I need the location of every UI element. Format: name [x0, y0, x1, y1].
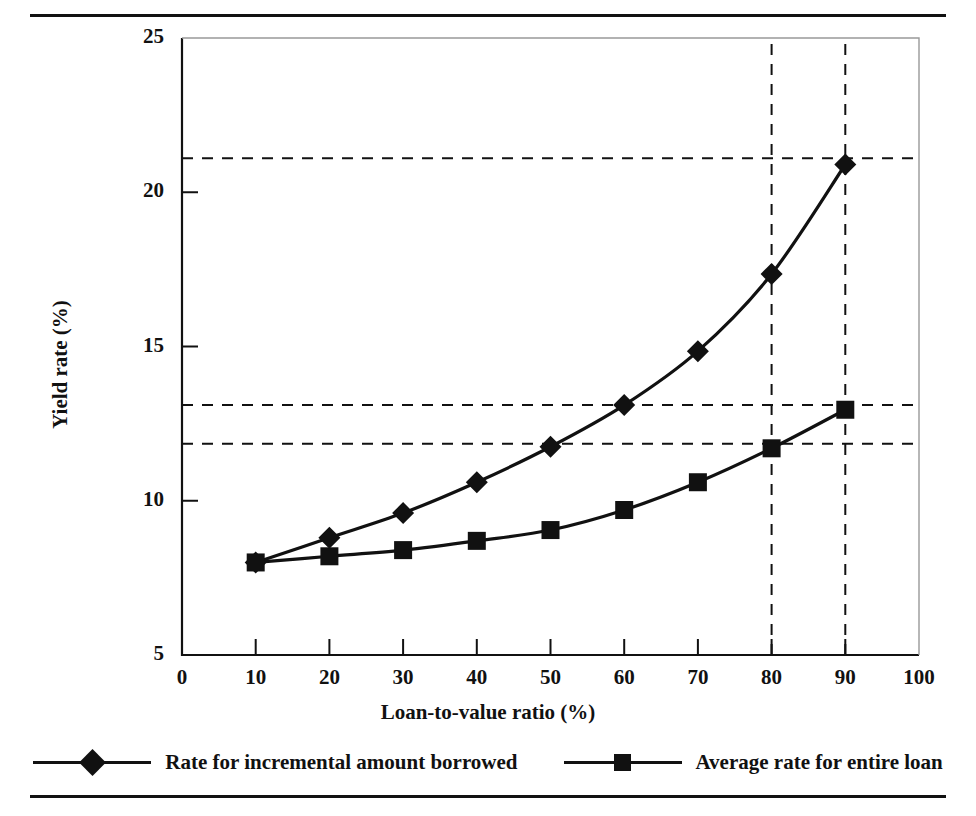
figure-container: 510152025 0102030405060708090100 Loan-to… — [0, 0, 976, 816]
data-point-incremental-20 — [318, 527, 340, 549]
y-tick-label-10: 10 — [104, 487, 164, 512]
data-point-average-60 — [615, 501, 633, 519]
data-point-incremental-50 — [540, 436, 562, 458]
legend-key-diamond — [33, 750, 151, 774]
x-tick-label-80: 80 — [742, 665, 802, 690]
legend-label-average-rate: Average rate for entire loan — [696, 750, 943, 775]
data-point-incremental-40 — [466, 471, 488, 493]
x-axis-title: Loan-to-value ratio (%) — [0, 700, 976, 725]
plot-frame — [182, 38, 919, 655]
x-tick-label-70: 70 — [668, 665, 728, 690]
data-point-average-40 — [468, 532, 486, 550]
y-tick-label-20: 20 — [104, 178, 164, 203]
chart-plot-area — [0, 0, 976, 816]
data-point-incremental-90 — [834, 153, 856, 175]
x-tick-label-100: 100 — [889, 665, 949, 690]
legend-label-incremental-rate: Rate for incremental amount borrowed — [165, 750, 517, 775]
plot-axes — [182, 38, 919, 655]
x-tick-label-40: 40 — [447, 665, 507, 690]
data-point-average-70 — [689, 473, 707, 491]
x-tick-label-90: 90 — [815, 665, 875, 690]
y-tick-label-15: 15 — [104, 333, 164, 358]
diamond-marker-icon — [79, 749, 106, 776]
data-point-average-90 — [836, 401, 854, 419]
data-point-average-50 — [542, 521, 560, 539]
legend-item-average-rate: Average rate for entire loan — [564, 750, 943, 775]
data-point-incremental-30 — [392, 502, 414, 524]
x-tick-label-10: 10 — [226, 665, 286, 690]
y-axis-title: Yield rate (%) — [48, 265, 73, 465]
data-point-average-20 — [320, 547, 338, 565]
data-point-average-30 — [394, 541, 412, 559]
y-tick-label-5: 5 — [104, 641, 164, 666]
chart-legend: Rate for incremental amount borrowed Ave… — [0, 742, 976, 782]
data-point-average-10 — [247, 553, 265, 571]
series-line-average-rate — [256, 410, 846, 563]
square-marker-icon — [614, 754, 631, 771]
x-tick-label-0: 0 — [152, 665, 212, 690]
legend-key-square — [564, 750, 682, 774]
y-tick-label-25: 25 — [104, 24, 164, 49]
x-tick-label-20: 20 — [299, 665, 359, 690]
data-point-incremental-60 — [613, 394, 635, 416]
x-tick-label-30: 30 — [373, 665, 433, 690]
legend-item-incremental-rate: Rate for incremental amount borrowed — [33, 750, 517, 775]
x-tick-label-60: 60 — [594, 665, 654, 690]
x-tick-label-50: 50 — [521, 665, 581, 690]
series-line-incremental-rate — [256, 164, 846, 562]
data-point-average-80 — [763, 439, 781, 457]
